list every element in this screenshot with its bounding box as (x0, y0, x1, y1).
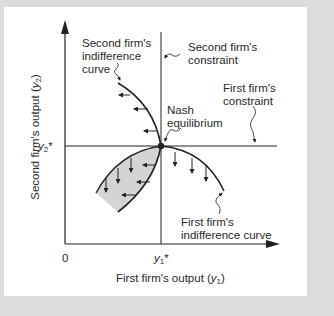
second-firm-indifference-curve (118, 83, 161, 146)
second-firm-indifference-label: Second firm's indifference curve (82, 37, 151, 76)
nash-equilibrium-diagram (0, 0, 334, 316)
y-axis-label: Second firm's output (y2) (29, 47, 43, 227)
y-axis-arrowhead (61, 20, 69, 34)
second-firm-constraint-label: Second firm's constraint (188, 41, 257, 67)
first-firm-constraint-label: First firm's constraint (223, 82, 276, 108)
origin-label: 0 (62, 252, 68, 265)
first-firm-indifference-label: First firm's indifference curve (181, 216, 272, 242)
x-axis-label: First firm's output (y1) (116, 272, 225, 288)
nash-equilibrium-label: Nash equilibrium (167, 104, 223, 130)
nash-equilibrium-point (158, 143, 164, 149)
x-star-tick-label: y1* (154, 252, 169, 268)
